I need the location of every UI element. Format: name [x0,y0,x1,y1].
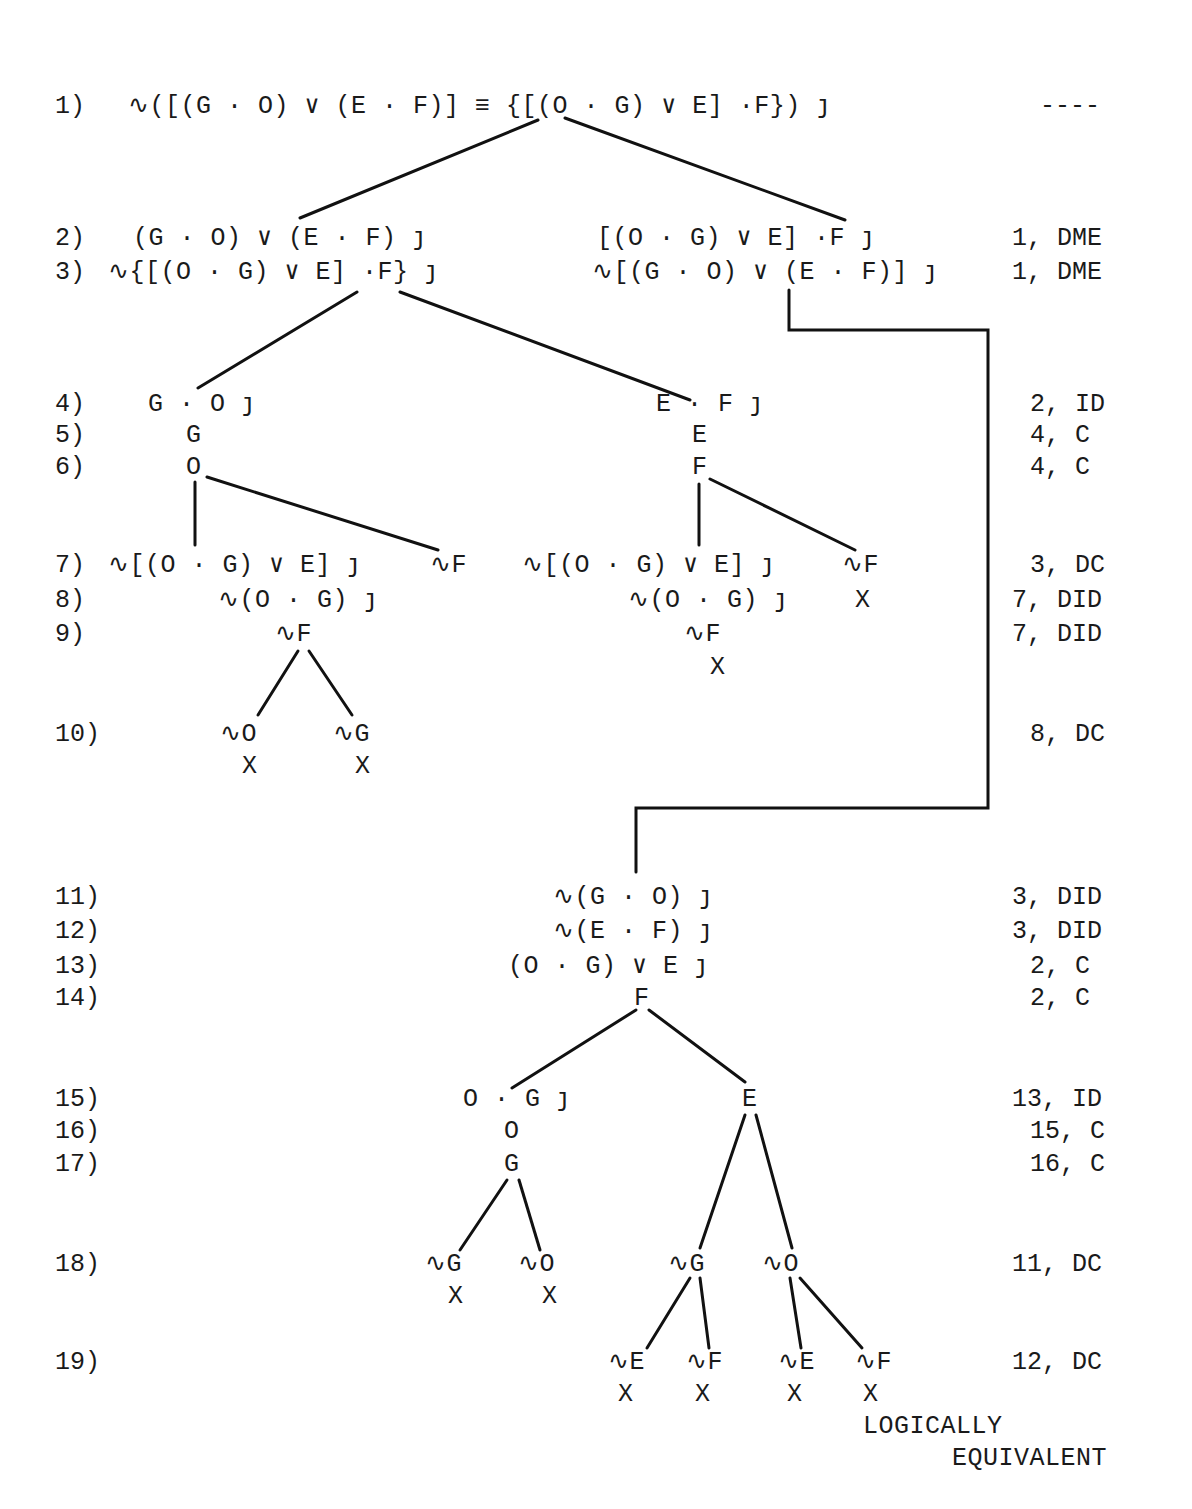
justification: 2, C [1030,984,1090,1014]
tree-node: ∿[(O · G) ∨ E] ȷ [108,551,362,581]
tree-node: ∿F [842,551,879,581]
closed-branch-mark: X [448,1282,464,1312]
branch-line [207,477,438,550]
line-number: 13) [55,952,100,982]
branch-line [309,651,352,715]
branch-line [198,292,357,388]
tree-node: ∿O [220,720,257,750]
line-number: 17) [55,1150,100,1180]
branch-line [565,118,845,220]
conclusion-line-2: EQUIVALENT [952,1444,1107,1474]
justification: 2, C [1030,952,1090,982]
justification: 8, DC [1030,720,1105,750]
tree-node: E · F ȷ [656,390,765,420]
tree-node: ∿F [855,1348,892,1378]
justification: 3, DID [1012,917,1102,947]
line-number: 3) [55,258,85,288]
tree-node: E [692,421,708,451]
tree-node: G · O ȷ [148,390,257,420]
tree-node: ∿(E · F) ȷ [553,917,714,947]
tree-node: ∿F [275,620,312,650]
closed-branch-mark: X [855,586,871,616]
line-number: 6) [55,453,85,483]
tree-node: G [504,1150,520,1180]
justification: 2, ID [1030,390,1105,420]
justification: 3, DC [1030,551,1105,581]
line-number: 11) [55,883,100,913]
conclusion-line-1: LOGICALLY [863,1412,1003,1442]
justification: 11, DC [1012,1250,1102,1280]
line-number: 4) [55,390,85,420]
tree-node: ∿[(G · O) ∨ (E · F)] ȷ [592,258,939,288]
branch-line [790,1278,801,1348]
branch-line [460,1180,507,1250]
justification: 7, DID [1012,620,1102,650]
line-number: 9) [55,620,85,650]
tree-node: (O · G) ∨ E ȷ [508,952,710,982]
tree-node: ∿{[(O · G) ∨ E] ·F} ȷ [108,258,440,288]
justification: 7, DID [1012,586,1102,616]
justification: 15, C [1030,1117,1105,1147]
line-number: 2) [55,224,85,254]
justification: ---- [1040,92,1100,122]
line-number: 1) [55,92,85,122]
justification: 1, DME [1012,258,1102,288]
branch-line [512,1010,636,1088]
line-number: 15) [55,1085,100,1115]
tree-node: ∿(O · G) ȷ [218,586,379,616]
closed-branch-mark: X [242,752,258,782]
closed-branch-mark: X [787,1380,803,1410]
tree-node: ∿E [608,1348,645,1378]
connector-line [636,290,988,872]
tree-node: ∿O [518,1250,555,1280]
closed-branch-mark: X [695,1380,711,1410]
tree-node: ∿F [684,620,721,650]
tree-node: E [742,1085,758,1115]
branch-line [700,1278,709,1348]
justification: 12, DC [1012,1348,1102,1378]
branch-line [300,120,538,218]
branch-line [756,1115,792,1248]
tree-node: [(O · G) ∨ E] ·F ȷ [597,224,876,254]
line-number: 10) [55,720,100,750]
justification: 16, C [1030,1150,1105,1180]
tree-node: ∿[(O · G) ∨ E] ȷ [522,551,776,581]
closed-branch-mark: X [355,752,371,782]
line-number: 12) [55,917,100,947]
branch-line [649,1010,745,1082]
branch-line [710,479,855,550]
tree-node: ∿O [762,1250,799,1280]
justification: 4, C [1030,421,1090,451]
closed-branch-mark: X [618,1380,634,1410]
branch-line [519,1180,540,1250]
branch-line [647,1278,690,1348]
tree-node: ∿E [778,1348,815,1378]
closed-branch-mark: X [542,1282,558,1312]
tree-node: O [504,1117,520,1147]
line-number: 19) [55,1348,100,1378]
tree-node: ∿(G · O) ȷ [553,883,714,913]
tree-node: F [692,453,708,483]
branch-line [400,292,690,400]
justification: 4, C [1030,453,1090,483]
tree-node: O [186,453,202,483]
justification: 1, DME [1012,224,1102,254]
closed-branch-mark: X [710,653,726,683]
line-number: 14) [55,984,100,1014]
branch-line [258,651,298,715]
line-number: 16) [55,1117,100,1147]
tree-node: G [186,421,202,451]
tree-node: (G · O) ∨ (E · F) ȷ [133,224,428,254]
line-number: 7) [55,551,85,581]
line-number: 18) [55,1250,100,1280]
tree-node: ∿F [686,1348,723,1378]
branch-line [800,1278,862,1348]
justification: 3, DID [1012,883,1102,913]
justification: 13, ID [1012,1085,1102,1115]
tree-node: ∿F [430,551,467,581]
tree-node: O · G ȷ [463,1085,572,1115]
tree-node: ∿G [425,1250,462,1280]
branch-line [700,1115,745,1248]
closed-branch-mark: X [863,1380,879,1410]
tree-node: ∿G [668,1250,705,1280]
